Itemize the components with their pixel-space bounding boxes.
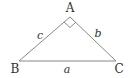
right-angle-marker bbox=[64, 22, 76, 28]
triangle-figure: A B C c b a bbox=[0, 0, 129, 78]
right-triangle-diagram: A B C c b a bbox=[0, 0, 129, 78]
side-label-b: b bbox=[94, 27, 101, 40]
vertex-label-a: A bbox=[65, 1, 75, 15]
vertex-label-b: B bbox=[11, 62, 20, 76]
side-label-a: a bbox=[64, 63, 71, 76]
side-label-c: c bbox=[37, 29, 43, 42]
vertex-label-c: C bbox=[114, 62, 123, 76]
